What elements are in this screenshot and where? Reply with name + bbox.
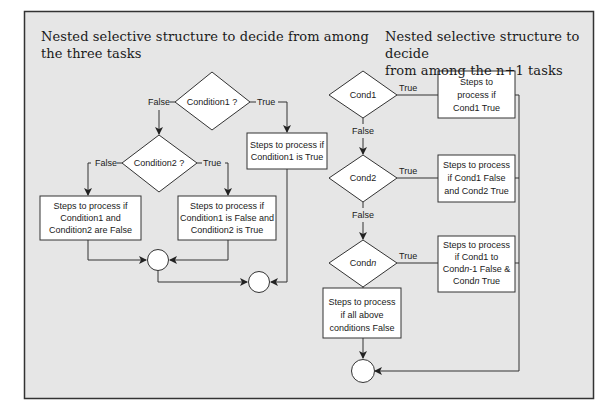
right-title-line1: Nested selective structure to decide	[385, 28, 613, 62]
box-c1f-c2t-line1: Steps to process if	[190, 201, 265, 211]
box-c1-true-line1: Steps to process if	[250, 140, 325, 150]
box1-line3: Cond1 True	[453, 103, 500, 113]
box2-line2: if Cond1 False	[447, 173, 505, 183]
boxn-line4: Condn True	[453, 276, 500, 286]
label-condition1: Condition1 ?	[187, 97, 238, 107]
boxn-line3: Condn-1 False &	[443, 264, 511, 274]
left-title: Nested selective structure to decide fro…	[41, 28, 369, 62]
left-title-line2: the three tasks	[41, 45, 369, 62]
box-c1-true-line2: Condition1 is True	[251, 152, 324, 162]
label-condition2: Condition2 ?	[134, 158, 185, 168]
label-false-2: False	[95, 158, 117, 168]
box-else-line3: conditions False	[329, 323, 394, 333]
box2-line1: Steps to process	[443, 160, 511, 170]
left-title-line1: Nested selective structure to decide fro…	[41, 28, 369, 45]
box2-line3: and Cond2 True	[444, 186, 509, 196]
label-true-cond2: True	[399, 166, 417, 176]
connector-circle-final	[352, 360, 375, 383]
label-false-cond2: False	[352, 210, 374, 220]
boxn-line2: if Cond1 to	[455, 252, 499, 262]
label-false-1: False	[148, 97, 170, 107]
label-cond2: Cond2	[350, 173, 377, 183]
label-true-2: True	[203, 158, 221, 168]
box-c1c2-false-line1: Steps to process if	[53, 201, 128, 211]
box-else-line2: if all above	[340, 310, 383, 320]
label-true-cond1: True	[399, 83, 417, 93]
right-title: Nested selective structure to decide fro…	[385, 28, 613, 79]
boxn-line1: Steps to process	[443, 240, 511, 250]
box-c1c2-false-line2: Condition1 and	[60, 213, 121, 223]
label-true-1: True	[257, 97, 275, 107]
box-c1f-c2t-line3: Condition2 is True	[191, 225, 264, 235]
box-c1f-c2t-line2: Condition1 is False and	[180, 213, 274, 223]
label-cond1: Cond1	[350, 90, 377, 100]
right-title-line2: from among the n+1 tasks	[385, 62, 613, 79]
box-c1c2-false-line3: Condition2 are False	[49, 225, 132, 235]
connector-circle-1	[148, 250, 169, 271]
box-else-line1: Steps to process	[328, 297, 396, 307]
connector-circle-2	[249, 272, 270, 293]
label-false-cond1: False	[352, 126, 374, 136]
label-condn: Condn	[350, 258, 377, 268]
label-true-condn: True	[399, 251, 417, 261]
diagram-stage: Condition1 ? Condition2 ? False True Fal…	[0, 0, 613, 414]
box-condition1-true	[247, 133, 327, 169]
box1-line2: process if	[457, 90, 496, 100]
